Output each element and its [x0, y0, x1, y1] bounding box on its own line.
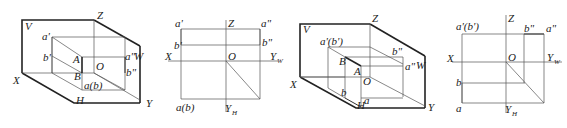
label-W: W — [416, 59, 426, 71]
figure-1-axonometric: V Z a' b' A O a" W b" B a(b) X H Y — [12, 9, 154, 109]
figure-4-projection: a'(b') Z b" a" X O Y W b a Y H — [446, 12, 562, 118]
label-b-dprime: b" — [262, 36, 273, 48]
label-Z: Z — [508, 12, 515, 24]
label-a-dprime: a" — [261, 17, 272, 29]
45-degree-line — [506, 62, 544, 103]
label-X: X — [164, 50, 173, 62]
label-V: V — [25, 20, 33, 32]
label-Y-W: Y W — [270, 50, 284, 65]
svg-text:H: H — [231, 109, 238, 117]
label-b-prime: b' — [43, 51, 52, 63]
v-plane-edge — [22, 20, 94, 73]
projection-diagrams: V Z a' b' A O a" W b" B a(b) X H Y a' Z … — [0, 0, 567, 128]
label-b: b — [456, 76, 462, 88]
label-Y: Y — [428, 101, 436, 113]
svg-text:H: H — [511, 110, 518, 118]
label-Z: Z — [97, 9, 104, 21]
label-b-dprime: b" — [392, 45, 403, 57]
label-b: b — [341, 86, 347, 98]
figure-2-projection: a' Z a" b' b" X O Y W a(b) Y H — [164, 17, 284, 117]
label-a-b: a(b) — [84, 79, 103, 92]
label-X: X — [289, 78, 298, 90]
label-A: A — [72, 53, 80, 65]
label-a-dprime: a" — [546, 22, 557, 34]
label-H: H — [75, 94, 85, 106]
label-Y-H: Y H — [225, 102, 238, 117]
label-X: X — [12, 74, 21, 86]
label-a-prime: a' — [42, 30, 51, 42]
label-a-b: a(b) — [176, 101, 195, 114]
label-a: a — [456, 102, 462, 114]
label-a-b-prime: a'(b') — [320, 35, 343, 48]
label-a-prime: a' — [175, 17, 184, 29]
figure-3-axonometric: V Z a'(b') b" a" W B A O X b H a Y — [289, 12, 436, 113]
label-O: O — [508, 51, 516, 63]
label-A: A — [353, 65, 361, 77]
label-b-dprime: b" — [126, 66, 137, 78]
label-W: W — [134, 50, 144, 62]
label-O: O — [96, 60, 104, 72]
label-B: B — [74, 70, 81, 82]
svg-text:W: W — [277, 57, 284, 65]
label-B: B — [339, 55, 346, 67]
label-a-b-prime: a'(b') — [456, 20, 479, 33]
label-X: X — [446, 52, 455, 64]
label-a: a — [364, 94, 370, 106]
label-O: O — [228, 50, 236, 62]
label-a-dprime: a" — [405, 60, 416, 72]
label-O: O — [363, 75, 371, 87]
y-axis — [370, 77, 425, 106]
45-degree-line — [226, 61, 260, 99]
label-b-dprime: b" — [524, 22, 535, 34]
label-Y-H: Y H — [505, 103, 518, 118]
label-b-prime: b' — [174, 39, 183, 51]
label-Z: Z — [372, 12, 379, 24]
label-Y-W: Y W — [547, 51, 561, 66]
label-Z: Z — [228, 17, 235, 29]
label-Y: Y — [146, 97, 154, 109]
w-plane-top-edge — [94, 20, 140, 46]
